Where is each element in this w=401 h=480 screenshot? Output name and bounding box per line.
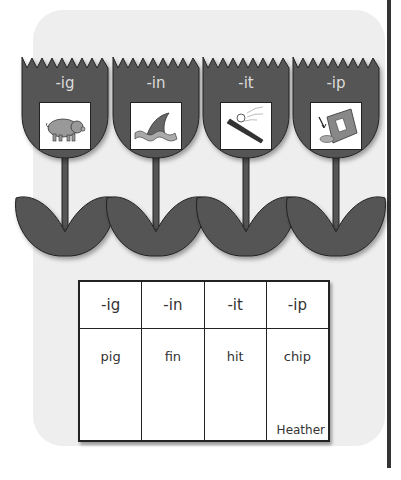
- tulip-label-it: -it: [203, 74, 289, 92]
- word-fin: fin: [142, 329, 204, 441]
- word-pig: pig: [80, 329, 142, 441]
- word-text: fin: [165, 349, 181, 364]
- tulip-label-in: -in: [113, 74, 199, 92]
- chip-picture: [310, 102, 362, 150]
- word-text: hit: [227, 349, 244, 364]
- word-hit: hit: [204, 329, 266, 441]
- signature: Heather: [277, 423, 325, 437]
- header-row: -ig -in -it -ip: [80, 282, 329, 329]
- tulip-label-ip: -ip: [293, 74, 379, 92]
- word-text: chip: [284, 349, 311, 364]
- header-it: -it: [204, 282, 266, 329]
- chip-bag-icon: [311, 103, 361, 149]
- bat-and-ball-icon: [221, 103, 271, 149]
- header-ip: -ip: [266, 282, 328, 329]
- shark-fin-icon: [131, 103, 181, 149]
- word-row: pig fin hit chipHeather: [80, 329, 329, 441]
- hit-picture: [220, 102, 272, 150]
- fin-picture: [130, 102, 182, 150]
- word-chip: chipHeather: [266, 329, 328, 441]
- header-ig: -ig: [80, 282, 142, 329]
- tulip-label-ig: -ig: [22, 74, 108, 92]
- header-in: -in: [142, 282, 204, 329]
- pig-icon: [40, 103, 90, 149]
- word-text: pig: [101, 349, 121, 364]
- pig-picture: [39, 102, 91, 150]
- word-sort-table: -ig -in -it -ip pig fin hit chipHeather: [78, 280, 330, 442]
